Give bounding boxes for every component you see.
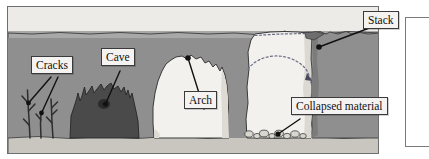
adjacent-panel-edge (405, 17, 429, 147)
label-stack[interactable]: Stack (363, 11, 399, 29)
dot-stack (316, 44, 322, 50)
label-arch[interactable]: Arch (184, 91, 217, 109)
former-cliff-dotted-line (281, 34, 308, 35)
dot-cracks-left (26, 101, 31, 106)
dot-cracks-right (39, 111, 44, 116)
label-collapsed-material[interactable]: Collapsed material (291, 97, 388, 115)
label-cave[interactable]: Cave (101, 48, 135, 66)
arch-stack-gap (229, 40, 247, 138)
landform-illustration (8, 7, 379, 154)
label-cracks-text: Cracks (36, 59, 68, 71)
stack-rock (246, 32, 313, 139)
label-stack-text: Stack (368, 14, 394, 26)
dot-collapsed (275, 131, 280, 136)
label-cracks[interactable]: Cracks (31, 56, 73, 74)
dot-cave (103, 101, 108, 106)
beach-edge (8, 136, 379, 154)
label-cave-text: Cave (106, 51, 130, 63)
diagram-frame (7, 6, 379, 154)
dot-arch (185, 55, 191, 61)
label-collapsed-material-text: Collapsed material (296, 100, 383, 112)
label-arch-text: Arch (189, 94, 212, 106)
